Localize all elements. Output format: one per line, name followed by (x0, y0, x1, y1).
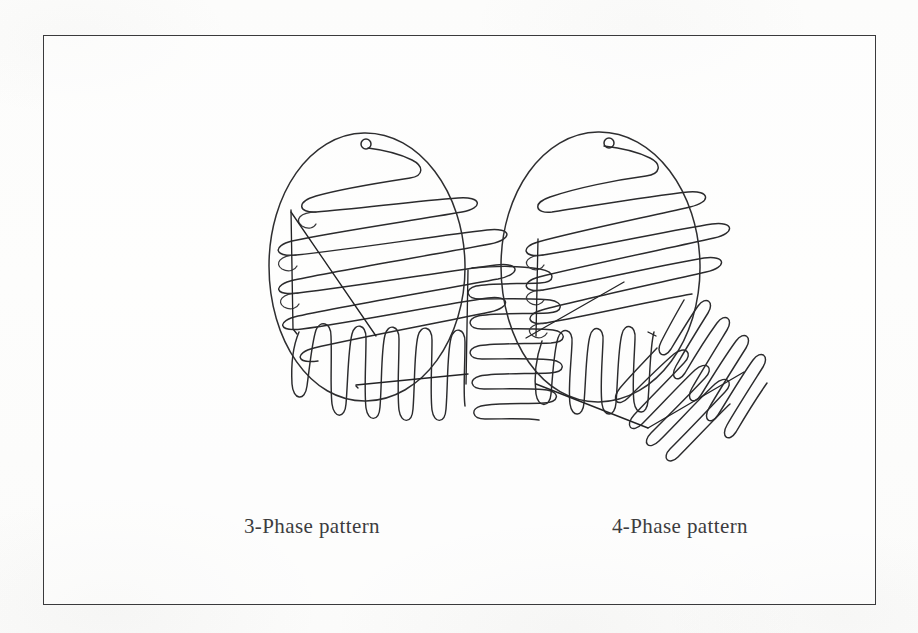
figure-frame-border: 3-Phase pattern 4-Phase pattern (43, 35, 876, 605)
phase-2-right-boundary (648, 332, 656, 336)
caption-three-phase: 3-Phase pattern (162, 514, 462, 539)
phase-3-streaks (615, 348, 730, 461)
phase-1-vertical-drag-line (536, 239, 538, 336)
phase-1-streaks (526, 146, 729, 324)
caption-four-phase: 4-Phase pattern (530, 514, 830, 539)
phase-4-streaks (659, 300, 767, 438)
figure-page: 3-Phase pattern 4-Phase pattern (0, 0, 918, 633)
phase-2-to-3-drag-line (536, 384, 648, 428)
dish-rim-icon (501, 132, 700, 402)
petri-dish-four-phase (44, 36, 877, 496)
